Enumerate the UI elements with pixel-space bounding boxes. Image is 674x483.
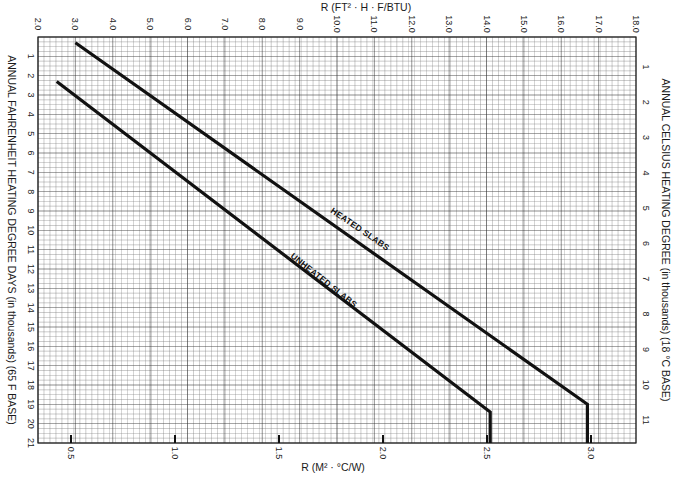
top-tick-label: 3.0 [70,18,80,31]
left-tick-label: 5 [26,131,36,136]
right-tick-label: 11 [641,415,651,424]
right-tick-label: 5 [641,206,651,211]
left-tick-label: 17 [26,361,36,371]
bottom-axis-title: R (M² · °C/W) [301,461,365,473]
left-tick-label: 12 [26,264,36,274]
left-tick-label: 14 [26,303,36,313]
top-tick-label: 7.0 [220,18,230,31]
left-tick-label: 21 [26,438,36,448]
left-tick-label: 15 [26,322,36,332]
right-tick-label: 6 [641,241,651,246]
left-tick-label: 3 [26,92,36,97]
top-tick-label: 4.0 [108,18,118,31]
right-axis-ticks: 1234567891011 [641,64,651,424]
grid [38,37,636,443]
left-tick-label: 6 [26,150,36,155]
bottom-tick-label: 3.0 [586,447,596,460]
top-tick-label: 8.0 [257,18,267,31]
top-axis-ticks: 2.03.04.05.06.07.08.09.010.011.012.013.0… [33,15,641,33]
left-tick-label: 16 [26,341,36,351]
right-tick-label: 4 [641,170,651,175]
right-tick-label: 3 [641,135,651,140]
top-tick-label: 16.0 [556,15,566,33]
top-tick-label: 6.0 [183,18,193,31]
bottom-tick-label: 0.5 [66,447,76,460]
right-tick-label: 1 [641,64,651,69]
left-tick-label: 18 [26,380,36,390]
left-tick-label: 20 [26,419,36,429]
right-axis-title: ANNUAL CELSIUS HEATING DEGREE (in thousa… [660,79,672,402]
top-tick-label: 9.0 [295,18,305,31]
right-tick-label: 9 [641,347,651,352]
top-tick-label: 11.0 [369,16,379,33]
top-axis-title: R (FT² · H · F/BTU) [321,1,411,13]
left-axis-ticks: 123456789101112131415161718192021 [26,54,36,448]
left-tick-label: 11 [26,245,36,254]
series-lines [57,43,588,443]
bottom-tick-label: 1.0 [170,447,180,460]
top-tick-label: 17.0 [594,15,604,33]
bottom-tick-label: 2.0 [378,447,388,460]
right-tick-label: 7 [641,276,651,281]
right-tick-label: 2 [641,100,651,105]
left-axis-title: ANNUAL FAHRENHEIT HEATING DEGREE DAYS (i… [6,55,18,425]
top-tick-label: 5.0 [145,18,155,31]
left-tick-label: 2 [26,73,36,78]
bottom-tick-label: 2.5 [482,447,492,460]
top-tick-label: 15.0 [519,15,529,33]
right-tick-label: 10 [641,380,651,390]
chart-svg: 2.03.04.05.06.07.08.09.010.011.012.013.0… [0,0,674,483]
top-tick-label: 13.0 [444,15,454,33]
left-tick-label: 8 [26,189,36,194]
top-tick-label: 18.0 [631,15,641,33]
right-tick-label: 8 [641,312,651,317]
bottom-tick-label: 1.5 [274,447,284,460]
left-tick-label: 10 [26,225,36,235]
left-tick-label: 19 [26,399,36,409]
left-tick-label: 1 [26,54,36,59]
left-tick-label: 13 [26,283,36,293]
left-tick-label: 4 [26,112,36,117]
left-tick-label: 7 [26,170,36,175]
top-tick-label: 10.0 [332,15,342,33]
top-tick-label: 12.0 [407,15,417,33]
top-tick-label: 14.0 [482,15,492,33]
left-tick-label: 9 [26,208,36,213]
top-tick-label: 2.0 [33,18,43,31]
